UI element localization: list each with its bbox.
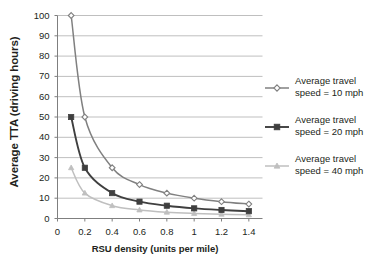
y-tick-label: 30 [20, 153, 50, 163]
x-tick-label: 0.4 [97, 227, 127, 237]
data-point-marker [219, 207, 224, 212]
y-tick-label: 0 [20, 214, 50, 224]
y-tick-label: 10 [20, 193, 50, 203]
x-tick-label: 1.4 [234, 227, 264, 237]
legend-entry[interactable]: Average travelspeed = 40 mph [262, 156, 379, 188]
legend-marker-icon [264, 80, 290, 92]
x-tick-label: 0.6 [125, 227, 155, 237]
chart-figure: Average TTA (driving hours) RSU density … [0, 0, 379, 265]
x-tick-label: 0.8 [152, 227, 182, 237]
data-point-marker [219, 199, 225, 205]
data-point-marker [164, 203, 169, 208]
series-line [71, 16, 249, 205]
legend-marker-icon [264, 119, 290, 131]
data-point-marker [69, 165, 74, 170]
y-tick-label: 70 [20, 71, 50, 81]
y-tick-label: 90 [20, 31, 50, 41]
y-tick-label: 40 [20, 132, 50, 142]
legend-label-line2: speed = 10 mph [295, 87, 379, 99]
y-tick-label: 20 [20, 173, 50, 183]
data-point-marker [274, 124, 280, 130]
legend-label-line1: Average travel [295, 75, 379, 87]
series-line [71, 117, 249, 211]
data-point-marker [274, 85, 280, 91]
y-tick-label: 100 [20, 11, 50, 21]
legend-label-line2: speed = 20 mph [295, 126, 379, 138]
data-point-marker [110, 191, 115, 196]
data-point-marker [137, 199, 142, 204]
legend-entry[interactable]: Average travelspeed = 10 mph [262, 78, 379, 110]
x-tick-label: 0 [43, 227, 73, 237]
x-tick-label: 1 [179, 227, 209, 237]
legend-marker-icon [264, 158, 290, 170]
data-point-marker [69, 114, 74, 119]
data-point-marker [192, 206, 197, 211]
series-1 [69, 114, 252, 213]
data-point-marker [164, 190, 170, 196]
data-point-marker [82, 114, 88, 120]
legend-entry[interactable]: Average travelspeed = 20 mph [262, 117, 379, 149]
legend-label: Average travelspeed = 40 mph [295, 153, 379, 176]
data-point-marker [246, 209, 251, 214]
data-point-marker [246, 201, 252, 207]
y-tick-label: 50 [20, 112, 50, 122]
data-point-marker [68, 13, 74, 19]
legend-label: Average travelspeed = 10 mph [295, 75, 379, 98]
legend-label: Average travelspeed = 20 mph [295, 114, 379, 137]
chart-legend: Average travelspeed = 10 mphAverage trav… [262, 78, 379, 195]
legend-label-line1: Average travel [295, 114, 379, 126]
legend-label-line1: Average travel [295, 153, 379, 165]
data-point-marker [137, 182, 143, 188]
y-tick-label: 60 [20, 92, 50, 102]
x-tick-label: 0.2 [70, 227, 100, 237]
y-tick-label: 80 [20, 51, 50, 61]
data-point-marker [191, 195, 197, 201]
data-point-marker [82, 165, 87, 170]
legend-label-line2: speed = 40 mph [295, 165, 379, 177]
x-tick-label: 1.2 [207, 227, 237, 237]
